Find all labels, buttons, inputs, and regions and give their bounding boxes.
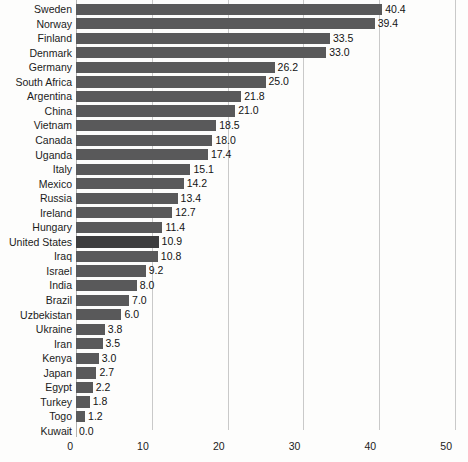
bar-container (76, 236, 159, 247)
bar-row: Iran3.5 (0, 337, 468, 352)
category-label: United States (0, 235, 72, 250)
bar (76, 207, 172, 218)
bar (76, 411, 85, 422)
category-label: Mexico (0, 177, 72, 192)
bar (76, 295, 129, 306)
bar-container (76, 18, 375, 29)
value-label: 25.0 (266, 76, 289, 88)
bar (76, 47, 326, 58)
bar (76, 62, 275, 73)
bar (76, 164, 190, 175)
category-label: Uganda (0, 148, 72, 163)
bar-container (76, 149, 208, 160)
value-label: 13.4 (178, 193, 201, 205)
bar-row: Italy15.1 (0, 162, 468, 177)
value-label: 1.8 (90, 396, 108, 408)
bar-container (76, 91, 241, 102)
bar-container (76, 338, 103, 349)
bar-row: Japan2.7 (0, 366, 468, 381)
bar-row: Canada18.0 (0, 133, 468, 148)
bar-row: China21.0 (0, 104, 468, 119)
category-label: South Africa (0, 75, 72, 90)
category-label: Italy (0, 162, 72, 177)
bar (76, 222, 162, 233)
category-label: India (0, 278, 72, 293)
category-label: Uzbekistan (0, 308, 72, 323)
bar (76, 149, 208, 160)
bar (76, 236, 159, 247)
category-label: Kenya (0, 351, 72, 366)
value-label: 40.4 (382, 4, 405, 16)
x-axis: 01020304050 (0, 430, 468, 462)
bar-row: Argentina21.8 (0, 89, 468, 104)
bar-row: Denmark33.0 (0, 46, 468, 61)
value-label: 14.2 (184, 178, 207, 190)
bar-container (76, 135, 212, 146)
bar-container (76, 295, 129, 306)
category-label: Togo (0, 409, 72, 424)
category-label: Germany (0, 60, 72, 75)
bar-row: Ukraine3.8 (0, 322, 468, 337)
category-label: Turkey (0, 395, 72, 410)
category-label: Ukraine (0, 322, 72, 337)
value-label: 7.0 (129, 295, 147, 307)
bar (76, 120, 216, 131)
category-label: Israel (0, 264, 72, 279)
value-label: 10.8 (158, 251, 181, 263)
value-label: 3.5 (103, 338, 121, 350)
category-label: China (0, 104, 72, 119)
bar-container (76, 396, 90, 407)
bar-row: Turkey1.8 (0, 395, 468, 410)
category-label: Denmark (0, 46, 72, 61)
bar-container (76, 178, 184, 189)
bar-container (76, 251, 158, 262)
x-tick-label: 0 (67, 440, 76, 452)
bar-row: Togo1.2 (0, 409, 468, 424)
bar (76, 18, 375, 29)
bar-row: Ireland12.7 (0, 206, 468, 221)
value-label: 2.7 (96, 367, 114, 379)
bar (76, 382, 93, 393)
bar-container (76, 105, 235, 116)
bar (76, 91, 241, 102)
bar (76, 193, 178, 204)
bar-row: United States10.9 (0, 235, 468, 250)
bar-row: Sweden40.4 (0, 2, 468, 17)
bar (76, 4, 382, 15)
category-label: Egypt (0, 380, 72, 395)
bar (76, 178, 184, 189)
category-label: Japan (0, 366, 72, 381)
bar (76, 367, 96, 378)
bar-container (76, 353, 99, 364)
value-label: 21.0 (235, 105, 258, 117)
bar-chart: Sweden40.4Norway39.4Finland33.5Denmark33… (0, 0, 468, 462)
bar-container (76, 382, 93, 393)
bar-container (76, 222, 162, 233)
x-tick-label: 20 (213, 440, 228, 452)
value-label: 3.8 (105, 324, 123, 336)
bar-row: Egypt2.2 (0, 380, 468, 395)
bar-container (76, 193, 178, 204)
bar (76, 280, 137, 291)
bar-row: Uzbekistan6.0 (0, 308, 468, 323)
bar-container (76, 324, 105, 335)
bar-container (76, 47, 326, 58)
value-label: 6.0 (121, 309, 139, 321)
bar (76, 33, 330, 44)
bar-container (76, 4, 382, 15)
bar-container (76, 120, 216, 131)
bar-row: Mexico14.2 (0, 177, 468, 192)
bar (76, 309, 121, 320)
value-label: 12.7 (172, 207, 195, 219)
bar (76, 105, 235, 116)
bar-container (76, 367, 96, 378)
bar-container (76, 76, 266, 87)
bar-row: Hungary11.4 (0, 220, 468, 235)
bar-row: Germany26.2 (0, 60, 468, 75)
value-label: 26.2 (275, 62, 298, 74)
bar-container (76, 62, 275, 73)
bar-row: South Africa25.0 (0, 75, 468, 90)
category-label: Hungary (0, 220, 72, 235)
value-label: 8.0 (137, 280, 155, 292)
value-label: 2.2 (93, 382, 111, 394)
